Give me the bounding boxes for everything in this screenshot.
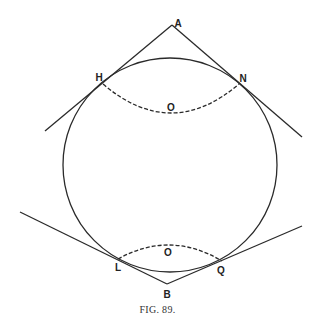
main-circle xyxy=(63,58,277,272)
geometry-figure xyxy=(0,0,315,323)
tangent-line-a-n xyxy=(172,25,302,137)
point-label-o-lower: O xyxy=(164,248,172,258)
point-label-l: L xyxy=(115,263,121,273)
tangent-line-b-q xyxy=(167,226,302,284)
point-label-q: Q xyxy=(217,266,225,276)
figure-caption: FIG. 89. xyxy=(0,304,315,315)
point-label-a: A xyxy=(174,19,181,29)
point-label-n: N xyxy=(239,74,246,84)
tangent-line-b-l xyxy=(20,212,167,284)
tangent-line-a-h xyxy=(45,25,172,131)
point-label-h: H xyxy=(95,73,102,83)
point-label-o-upper: O xyxy=(167,103,175,113)
point-label-b: B xyxy=(163,290,170,300)
